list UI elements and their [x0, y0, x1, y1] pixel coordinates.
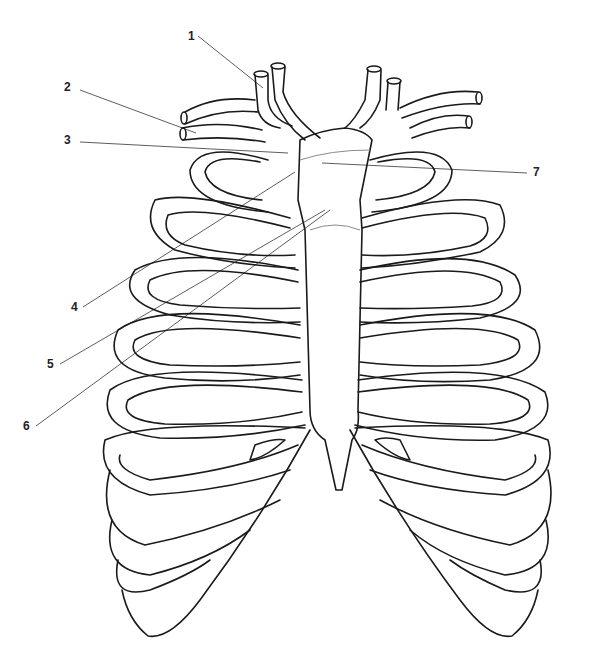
label-7: 7 [533, 166, 540, 178]
ribcage-drawing [0, 0, 590, 658]
label-6: 6 [23, 420, 30, 432]
label-1: 1 [188, 30, 195, 42]
leader-lines [36, 36, 527, 426]
sternum [298, 128, 372, 490]
label-2: 2 [64, 81, 71, 93]
ribcage-diagram: 1 2 3 4 5 6 7 [0, 0, 590, 658]
label-5: 5 [47, 358, 54, 370]
right-ribs [350, 152, 551, 636]
left-ribs [103, 152, 310, 636]
label-4: 4 [71, 301, 78, 313]
label-3: 3 [64, 134, 71, 146]
